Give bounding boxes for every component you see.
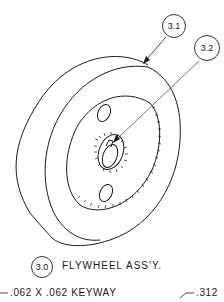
- callout-3-2-label: 3.2: [201, 43, 214, 53]
- mounting-hole-top: [95, 102, 113, 123]
- rim-outer-edge: [16, 57, 148, 238]
- dimension-note: .312: [196, 288, 218, 298]
- callout-3-1-label: 3.1: [168, 21, 181, 31]
- shaft-bore: [99, 142, 120, 169]
- leader-3-1: [146, 37, 166, 60]
- assembly-title: FLYWHEEL ASS'Y.: [62, 261, 162, 271]
- rim-inner-edge: [45, 66, 148, 240]
- mounting-hole-bottom: [97, 182, 115, 203]
- dimension-leader-stub: [180, 293, 194, 298]
- knurl-ticks: [78, 107, 161, 208]
- callout-balloon-3-2: 3.2: [194, 35, 220, 61]
- callout-balloon-3-1: 3.1: [162, 14, 186, 38]
- keyway-note: .062 X .062 KEYWAY: [10, 288, 116, 298]
- assembly-balloon: 3.0: [31, 256, 53, 278]
- assembly-balloon-label: 3.0: [36, 262, 49, 272]
- rim-front-edge: [52, 67, 180, 246]
- leader-3-2: [118, 61, 199, 138]
- hub-face: [67, 96, 160, 210]
- flywheel-drawing: [0, 0, 224, 302]
